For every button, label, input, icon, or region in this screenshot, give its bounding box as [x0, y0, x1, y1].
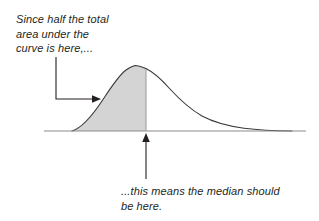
top-callout-text: Since half the total area under the curv… [16, 12, 166, 56]
bottom-callout-arrowhead-icon [142, 133, 150, 142]
shaded-area-left-half [72, 66, 146, 132]
bottom-callout-text: ...this means the median should be here. [121, 184, 316, 213]
top-callout-arrowhead-icon [92, 95, 101, 103]
top-callout-pointer-line [56, 57, 95, 99]
